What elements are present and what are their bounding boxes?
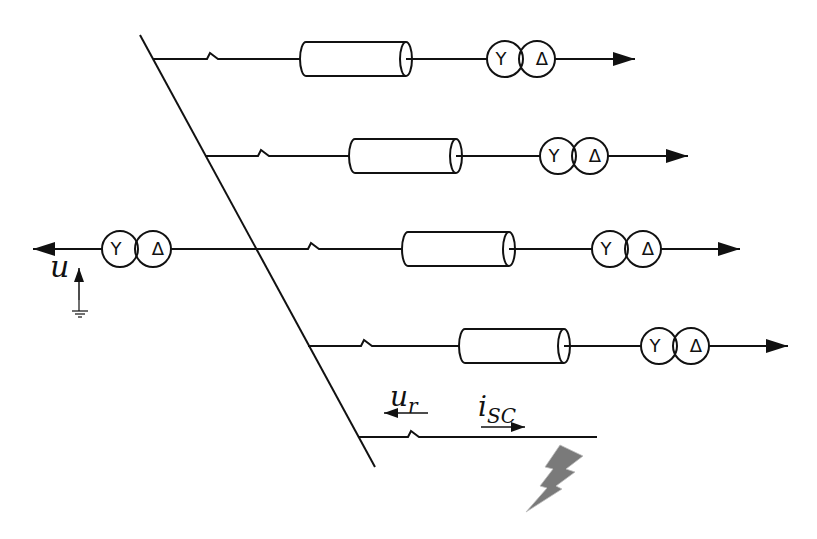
wye-symbol: Y	[548, 145, 561, 166]
delta-symbol: Δ	[536, 48, 549, 69]
ground-icon	[72, 300, 88, 317]
residual-voltage-main: u	[390, 380, 408, 413]
delta-symbol: Δ	[690, 335, 703, 356]
cable-icon	[459, 329, 570, 363]
wye-symbol: Y	[600, 238, 613, 259]
short-circuit-current-main: i	[478, 390, 487, 423]
wye-symbol: Y	[495, 48, 508, 69]
source-voltage-label: u	[50, 249, 69, 284]
busbar	[140, 35, 375, 467]
short-circuit-current-sub: SC	[487, 404, 516, 428]
feeder-1	[153, 41, 635, 77]
breaker-icon	[205, 150, 349, 156]
feeder-2	[205, 138, 688, 174]
breaker-icon	[358, 431, 597, 437]
winding-symbols: Y Δ Y Δ Y Δ Y Δ Y Δ	[110, 48, 703, 356]
short-circuit-current-label: iSC	[478, 390, 516, 428]
wye-symbol: Y	[110, 238, 123, 259]
breaker-icon	[257, 243, 402, 249]
delta-symbol: Δ	[642, 238, 655, 259]
cable-icon	[349, 139, 462, 173]
feeder-3	[257, 231, 740, 267]
delta-symbol: Δ	[152, 238, 165, 259]
residual-voltage-sub: r	[408, 394, 418, 418]
feeder-4	[308, 328, 788, 364]
fault-lightning-icon	[526, 445, 583, 512]
delta-symbol: Δ	[589, 145, 602, 166]
power-system-diagram: Y Δ Y Δ Y Δ Y Δ Y Δ u ur iSC	[0, 0, 817, 539]
residual-voltage-label: ur	[390, 380, 418, 418]
breaker-icon	[308, 340, 459, 346]
wye-symbol: Y	[649, 335, 662, 356]
breaker-icon	[153, 53, 300, 59]
diagram-svg: Y Δ Y Δ Y Δ Y Δ Y Δ	[0, 0, 817, 539]
cable-icon	[300, 42, 412, 76]
cable-icon	[402, 232, 515, 266]
